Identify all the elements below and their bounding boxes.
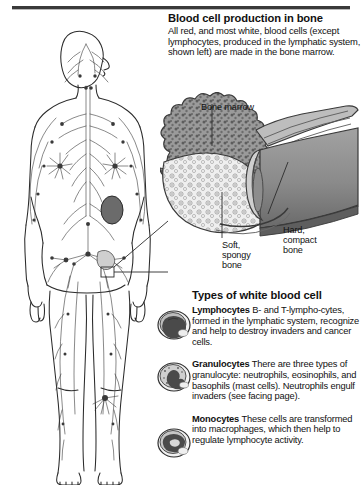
white-blood-cell-section: Types of white blood cell Lymphocytes B-…	[192, 289, 362, 450]
label-compact-bone: Hard, compact bone	[283, 225, 317, 256]
label-compact-line-2: compact	[283, 235, 317, 245]
page-title: Blood cell production in bone	[168, 12, 362, 25]
wbc-section-title: Types of white blood cell	[192, 289, 362, 302]
wbc-granulocytes-term: Granulocytes	[192, 359, 250, 369]
monocyte-cell-icon	[156, 428, 192, 458]
wbc-entry-monocytes: Monocytes These cells are transformed in…	[192, 414, 362, 446]
wbc-lymphocytes-text: Lymphocytes B- and T-lympho-cytes, forme…	[192, 305, 362, 347]
wbc-entry-lymphocytes: Lymphocytes B- and T-lympho-cytes, forme…	[192, 305, 362, 347]
wbc-granulocytes-text: Granulocytes There are three types of gr…	[192, 359, 362, 401]
wbc-lymphocytes-term: Lymphocytes	[192, 305, 250, 315]
lymphatic-system-figure	[0, 14, 168, 485]
label-spongy-line-2: spongy	[222, 250, 251, 260]
label-compact-line-1: Hard,	[283, 225, 317, 235]
wbc-monocytes-term: Monocytes	[192, 414, 239, 424]
header-description: All red, and most white, blood cells (ex…	[168, 26, 362, 58]
label-spongy-line-1: Soft,	[222, 240, 251, 250]
label-spongy-line-3: bone	[222, 260, 251, 270]
wbc-monocytes-text: Monocytes These cells are transformed in…	[192, 414, 362, 446]
label-spongy-bone: Soft, spongy bone	[222, 240, 251, 271]
label-compact-line-3: bone	[283, 245, 317, 255]
spleen	[101, 196, 123, 224]
cell-icons-layer	[156, 0, 196, 485]
lymphocyte-cell-icon	[156, 310, 192, 340]
label-bone-marrow: Bone marrow	[201, 102, 254, 112]
granulocyte-cell-icon	[156, 362, 192, 392]
header-text-block: Blood cell production in bone All red, a…	[168, 12, 362, 58]
wbc-entry-granulocytes: Granulocytes There are three types of gr…	[192, 359, 362, 401]
page-root: Blood cell production in bone All red, a…	[0, 0, 362, 485]
